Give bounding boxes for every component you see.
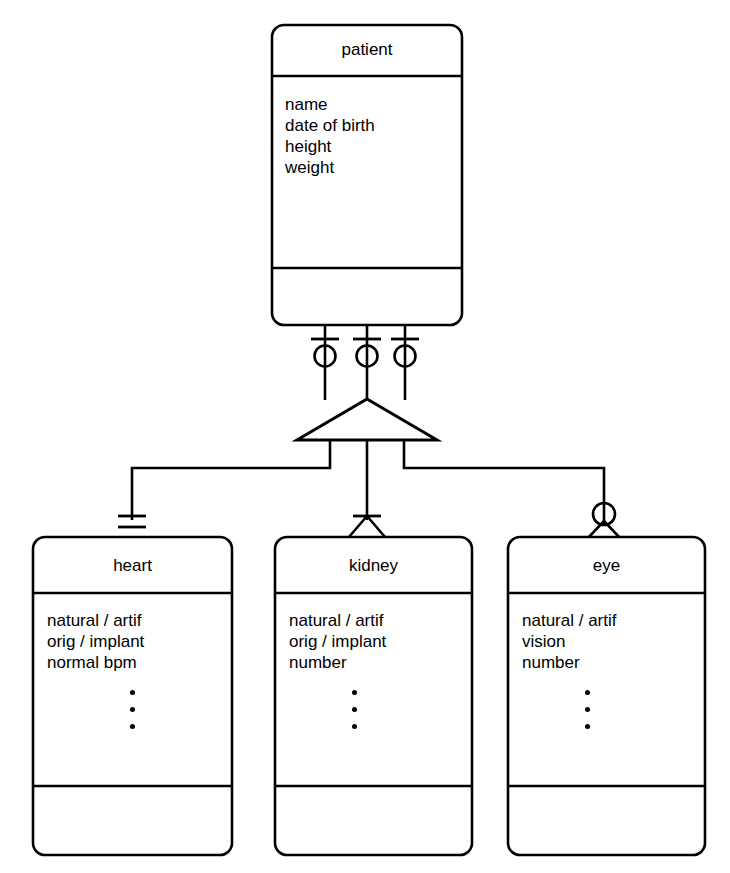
category-triangle-icon[interactable] [297,399,437,440]
attribute-item: normal bpm [47,652,144,673]
attribute-item: orig / implant [47,631,144,652]
entity-title-patient: patient [272,40,462,60]
attribute-list-heart: natural / artif orig / implant normal bp… [47,610,144,673]
attribute-list-patient: name date of birth height weight [285,94,375,178]
er-diagram-canvas: patient name date of birth height weight… [0,0,730,873]
attribute-ellipsis-heart [122,690,142,741]
attribute-item: weight [285,157,375,178]
attribute-item: date of birth [285,115,375,136]
eye-crowsfoot-left [588,521,604,538]
attribute-item: number [522,652,617,673]
attribute-item: natural / artif [289,610,386,631]
eye-box-outline [508,537,705,855]
entity-title-eye: eye [508,556,705,576]
kidney-box-outline [275,537,472,855]
attribute-item: vision [522,631,617,652]
category-triangle-shape [297,399,437,440]
attribute-ellipsis-eye [577,690,597,741]
entity-title-kidney: kidney [275,556,472,576]
attribute-list-eye: natural / artif vision number [522,610,617,673]
drop-line-eye [404,440,604,515]
parent-connector-1[interactable] [311,325,339,400]
distribution-lines [132,440,604,520]
entity-title-heart: heart [33,556,232,576]
parent-connector-2[interactable] [353,325,381,400]
cardinality-eye-zero-or-more[interactable] [588,503,620,538]
attribute-item: number [289,652,386,673]
attribute-item: natural / artif [522,610,617,631]
entity-box-eye[interactable] [508,537,705,855]
attribute-item: height [285,136,375,157]
attribute-ellipsis-kidney [344,690,364,741]
kidney-crowsfoot-left [349,516,367,537]
drop-line-heart [132,440,330,520]
entity-box-kidney[interactable] [275,537,472,855]
kidney-crowsfoot-right [367,516,385,537]
attribute-item: name [285,94,375,115]
attribute-list-kidney: natural / artif orig / implant number [289,610,386,673]
attribute-item: orig / implant [289,631,386,652]
attribute-item: natural / artif [47,610,144,631]
eye-crowsfoot-right [604,521,620,538]
parent-connector-3[interactable] [391,325,419,400]
